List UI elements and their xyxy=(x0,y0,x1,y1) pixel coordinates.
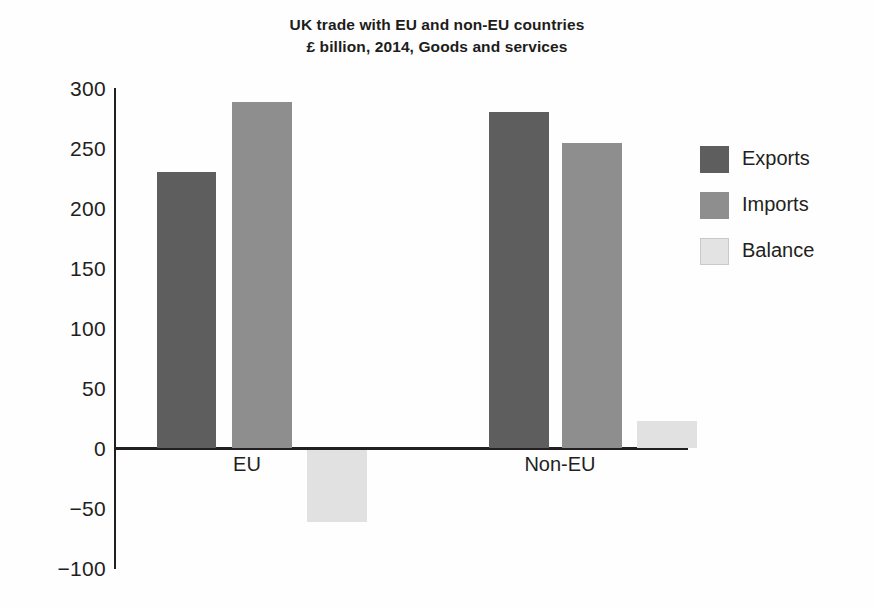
legend-swatch-balance-icon xyxy=(700,238,729,265)
legend-swatch-imports-icon xyxy=(700,192,729,219)
y-tick-label: 250 xyxy=(20,138,106,159)
y-tick-label: 300 xyxy=(20,78,106,99)
y-tick-minus-100: −100 xyxy=(0,558,106,579)
y-tick-label: 0 xyxy=(20,438,106,459)
bar-eu-exports xyxy=(157,172,216,448)
legend-label: Imports xyxy=(742,188,809,220)
bar-noneu-balance xyxy=(637,421,697,448)
y-tick-100: 100 xyxy=(0,318,106,339)
chart-legend: Exports Imports Balance xyxy=(700,142,868,280)
y-tick-300: 300 xyxy=(0,78,106,99)
bar-noneu-exports xyxy=(489,112,549,448)
legend-item-balance: Balance xyxy=(700,234,868,280)
y-tick-label: 150 xyxy=(20,258,106,279)
legend-label: Exports xyxy=(742,142,810,174)
legend-item-exports: Exports xyxy=(700,142,868,188)
y-tick-150: 150 xyxy=(0,258,106,279)
plot-area: 300 250 200 150 100 50 0 −50 −100 xyxy=(0,0,874,607)
y-axis-line xyxy=(114,88,116,569)
bar-eu-balance xyxy=(307,450,367,522)
x-axis-label-non-eu: Non-EU xyxy=(505,452,615,476)
y-tick-250: 250 xyxy=(0,138,106,159)
bar-eu-imports xyxy=(232,102,292,448)
y-tick-label: −100 xyxy=(20,558,106,579)
y-tick-minus-50: −50 xyxy=(0,498,106,519)
legend-label: Balance xyxy=(742,234,814,266)
y-tick-label: 200 xyxy=(20,198,106,219)
y-tick-0: 0 xyxy=(0,438,106,459)
y-tick-label: 100 xyxy=(20,318,106,339)
legend-swatch-exports-icon xyxy=(700,146,729,173)
x-axis-label-eu: EU xyxy=(202,452,292,476)
y-tick-200: 200 xyxy=(0,198,106,219)
chart-figure: UK trade with EU and non-EU countries £ … xyxy=(0,0,874,607)
y-tick-50: 50 xyxy=(0,378,106,399)
legend-item-imports: Imports xyxy=(700,188,868,234)
bar-noneu-imports xyxy=(562,143,622,448)
y-tick-label: 50 xyxy=(20,378,106,399)
y-tick-label: −50 xyxy=(20,498,106,519)
